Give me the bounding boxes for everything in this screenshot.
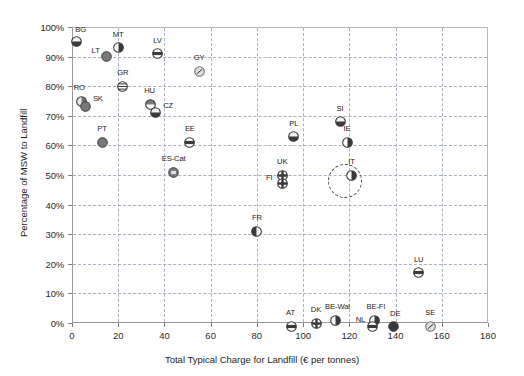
data-point-label-ee: EE: [185, 124, 195, 133]
y-tick-mark: [68, 116, 72, 117]
y-tick-mark: [68, 175, 72, 176]
data-point-pl[interactable]: [288, 128, 299, 139]
gridline-vertical: [396, 28, 397, 322]
x-tick-mark: [164, 323, 165, 327]
gridline-vertical: [303, 28, 304, 322]
gridline-horizontal: [73, 145, 487, 146]
gridline-horizontal: [73, 86, 487, 87]
data-point-fi[interactable]: [277, 175, 288, 186]
data-point-label-be-wal: BE-Wal: [325, 302, 350, 311]
y-tick-mark: [68, 293, 72, 294]
data-point-label-cz: CZ: [163, 101, 173, 110]
x-tick-label: 80: [252, 330, 263, 341]
y-tick-label: 0%: [51, 318, 64, 329]
data-point-dk[interactable]: [311, 315, 322, 326]
data-point-label-pt: PT: [97, 124, 107, 133]
y-tick-mark: [68, 57, 72, 58]
y-tick-mark: [68, 264, 72, 265]
x-tick-label: 160: [434, 330, 450, 341]
gridline-horizontal: [73, 234, 487, 235]
x-tick-mark: [118, 323, 119, 327]
gridline-horizontal: [73, 293, 487, 294]
data-point-label-ro: RO: [74, 83, 85, 92]
data-point-at[interactable]: [286, 318, 297, 329]
y-tick-label: 90%: [46, 51, 64, 62]
y-tick-label: 30%: [46, 229, 64, 240]
data-point-mt[interactable]: [113, 39, 124, 50]
data-point-bg[interactable]: [71, 33, 82, 44]
y-tick-label: 20%: [46, 258, 64, 269]
gridline-vertical: [164, 28, 165, 322]
x-axis-title: Total Typical Charge for Landfill (€ per…: [0, 354, 524, 365]
data-point-label-it: IT: [348, 157, 355, 166]
y-tick-mark: [68, 27, 72, 28]
gridline-vertical: [257, 28, 258, 322]
data-point-si[interactable]: [335, 113, 346, 124]
x-tick-label: 0: [69, 330, 74, 341]
y-axis-title: Percentage of MSW to Landfill: [18, 109, 29, 237]
data-point-sk[interactable]: [80, 98, 91, 109]
x-tick-mark: [442, 323, 443, 327]
data-point-label-lv: LV: [153, 36, 162, 45]
data-point-gy[interactable]: [194, 63, 205, 74]
y-tick-label: 80%: [46, 81, 64, 92]
data-point-label-uk: UK: [277, 157, 287, 166]
data-point-es-cat[interactable]: [168, 164, 179, 175]
y-tick-mark: [68, 234, 72, 235]
x-tick-label: 100: [295, 330, 311, 341]
scatter-chart: 0%10%20%30%40%50%60%70%80%90%100% 020406…: [0, 0, 524, 376]
data-point-de[interactable]: [388, 318, 399, 329]
data-point-nl[interactable]: [367, 318, 378, 329]
gridline-horizontal: [73, 116, 487, 117]
data-point-pt[interactable]: [97, 134, 108, 145]
data-point-it[interactable]: [346, 167, 357, 178]
data-point-label-gy: GY: [194, 53, 205, 62]
data-point-fr[interactable]: [251, 223, 262, 234]
y-tick-label: 100%: [41, 22, 65, 33]
x-tick-mark: [72, 323, 73, 327]
data-point-cz[interactable]: [150, 104, 161, 115]
data-point-label-se: SE: [425, 308, 435, 317]
x-tick-mark: [349, 323, 350, 327]
data-point-label-lt: LT: [92, 46, 100, 55]
x-tick-label: 120: [341, 330, 357, 341]
x-tick-mark: [257, 323, 258, 327]
data-point-gr[interactable]: [117, 78, 128, 89]
data-point-label-hu: HU: [144, 86, 155, 95]
data-point-label-fr: FR: [252, 213, 262, 222]
data-point-ee[interactable]: [184, 134, 195, 145]
x-tick-label: 20: [113, 330, 124, 341]
data-point-ie[interactable]: [342, 134, 353, 145]
data-point-label-nl: NL: [356, 315, 366, 324]
data-point-label-pl: PL: [289, 119, 298, 128]
y-tick-mark: [68, 86, 72, 87]
x-tick-mark: [211, 323, 212, 327]
gridline-horizontal: [73, 205, 487, 206]
gridline-horizontal: [73, 264, 487, 265]
x-tick-mark: [488, 323, 489, 327]
x-tick-label: 140: [388, 330, 404, 341]
data-point-label-es-cat: ES-Cat: [162, 154, 186, 163]
data-point-label-si: SI: [337, 104, 344, 113]
data-point-lu[interactable]: [413, 264, 424, 275]
y-tick-mark: [68, 205, 72, 206]
gridline-horizontal: [73, 57, 487, 58]
y-tick-mark: [68, 145, 72, 146]
data-point-label-fi: FI: [266, 173, 273, 182]
data-point-label-sk: SK: [93, 94, 103, 103]
data-point-be-wal[interactable]: [330, 312, 341, 323]
data-point-label-at: AT: [286, 308, 295, 317]
data-point-lv[interactable]: [152, 45, 163, 56]
data-point-label-bg: BG: [75, 25, 86, 34]
y-tick-label: 50%: [46, 170, 64, 181]
gridline-vertical: [442, 28, 443, 322]
data-point-label-be-fl: BE-Fl: [367, 302, 386, 311]
data-point-se[interactable]: [425, 318, 436, 329]
y-tick-label: 70%: [46, 110, 64, 121]
data-point-label-mt: MT: [113, 30, 124, 39]
y-tick-label: 40%: [46, 199, 64, 210]
x-tick-label: 40: [159, 330, 170, 341]
data-point-lt[interactable]: [101, 48, 112, 59]
y-tick-label: 60%: [46, 140, 64, 151]
x-tick-label: 180: [480, 330, 496, 341]
